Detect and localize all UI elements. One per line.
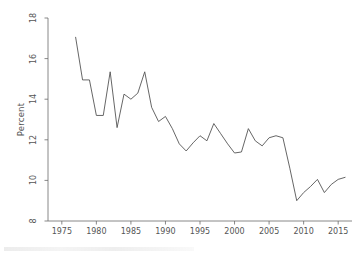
chart-figure: Percent 81012141618 19751980198519901995… xyxy=(0,0,361,257)
y-axis-ticks xyxy=(45,18,49,221)
data-series-line xyxy=(76,37,345,200)
x-axis-ticks xyxy=(62,221,338,225)
footer-artifact xyxy=(4,247,194,251)
plot-area xyxy=(0,0,361,257)
